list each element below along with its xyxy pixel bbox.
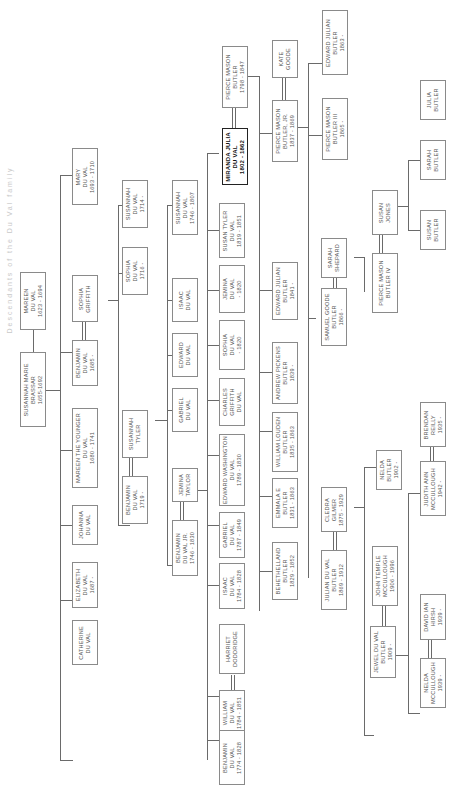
connector (108, 300, 118, 301)
person-box: BENJAMIN DU VAL 1774 - 1828 (219, 730, 245, 785)
connector (198, 490, 207, 491)
person-box: MAREEN THE YOUNGER DU VAL 1680 - 1741 (72, 408, 98, 488)
person-box: SOPHIA GRIFFITH (72, 275, 98, 322)
person-box: EDWARD JULIAN BUTLER 1841 - (272, 262, 298, 320)
person-box: PIERCE MASON BUTLER 1798 - 1847 (222, 46, 248, 108)
marriage-connector (231, 675, 235, 691)
person-box: SUSANNAH TYLER (122, 410, 148, 458)
person-box: SUSANNAH DU VAL 1746 - 1807 (172, 180, 198, 235)
person-box: WILLIAM LOUDEN BUTLER 1835 - 1863 (272, 412, 298, 472)
person-box: EDWARD JULIAN BUTLER 1863 - (322, 10, 348, 75)
connector (408, 493, 420, 494)
person-box: PIERCE MASON BUTLER, JR. 1837 - 1869 (272, 100, 298, 162)
person-box: KATE GOODE (272, 40, 298, 78)
connector (259, 372, 272, 373)
person-box: DAVID IAN HIRSH 1939 - (420, 594, 446, 640)
connector (408, 160, 409, 230)
person-box-highlighted: MIRANDA JULIA DU VAL 1802 - 1862 (222, 128, 248, 185)
person-box: JEWEL DU VAL BUTLER 1909 - (370, 626, 396, 678)
connector (60, 760, 73, 761)
connector (308, 135, 322, 136)
person-box: SARAH BUTLER (420, 140, 446, 180)
person-box: NELDA MCCULLOUGH 1939 - (420, 658, 446, 708)
connector (354, 257, 364, 258)
person-box: BENJAMIN DU VAL 1685 - (72, 340, 98, 386)
person-box: EMMALA E BUTLER 1831 - 1863 (272, 478, 298, 528)
person-box: EDWARD DU VAL (172, 333, 198, 377)
connector (364, 735, 374, 736)
connector (298, 127, 308, 128)
person-box: SUSANNAH MARIE BRASSAR 1655-1692 (20, 352, 46, 427)
person-box: NELDA BUTLER 1902 - (376, 450, 402, 490)
diagram-title: Descendants of the Du Val family (4, 150, 14, 350)
connector (259, 571, 272, 572)
person-box: CHARLES GRIFFITH DU VAL (219, 378, 245, 426)
person-box: ANDREW PICKENS BUTLER 1839 - (272, 342, 298, 404)
connector (398, 206, 408, 207)
person-box: EDWARD WASHINGTON DU VAL 1789 - 1830 (219, 434, 245, 506)
person-box: ISAAC DU VAL (172, 278, 198, 322)
connector (259, 431, 272, 432)
connector (155, 420, 167, 421)
person-box: JUDITH ANN MCCULLOUGH 1942 - (420, 461, 446, 516)
person-box: CATHERINE DU VAL (72, 620, 98, 665)
person-box: SOPHIA DU VAL 1716 - (122, 247, 148, 295)
person-box: SUSAN TYLER DU VAL 1819 - 1851 (219, 203, 245, 258)
person-box: BENJAMIN DU VAL 1719 - (122, 476, 148, 524)
person-box: JULIAN DU VAL BUTLER 1869 - 1912 (321, 550, 347, 610)
connector (207, 230, 208, 760)
person-box: BEHETHELLAND BUTLER 1829 - 1852 (272, 542, 298, 600)
connector (207, 455, 219, 456)
connector (408, 160, 420, 161)
person-box: SAMUEL GOODE BUTLER 1866 - (321, 288, 347, 346)
connector (207, 525, 219, 526)
connector (308, 318, 309, 578)
connector (207, 740, 219, 741)
person-box: JEMINA DU VAL - 1820 (219, 265, 245, 313)
person-box: SUSAN BUTLER (420, 210, 446, 250)
connector (259, 133, 272, 134)
connector (118, 525, 130, 526)
person-box: ISAAC DU VAL 1784 - 1828 (219, 563, 245, 609)
connector (354, 507, 364, 508)
person-box: MARY DU VAL 1693 - 1710 (72, 148, 98, 205)
connector (259, 496, 272, 497)
person-box: SUSANNAH DU VAL 1714 - (122, 180, 148, 228)
connector (207, 153, 208, 230)
connector (364, 257, 365, 292)
person-box: PIERCE MASON BUTLER IV (372, 253, 398, 313)
family-tree-diagram: Descendants of the Du Val family (0, 0, 462, 797)
marriage-connector (382, 606, 386, 626)
connector (364, 467, 376, 468)
marriage-connector (82, 322, 86, 340)
marriage-connector (379, 235, 383, 253)
person-box: JEMINA TAYLOR (172, 468, 198, 502)
person-box: BENJAMIN DU VAL JR. 1746 - 1830 (172, 520, 198, 576)
connector (248, 76, 259, 77)
connector (46, 390, 60, 391)
connector (33, 330, 34, 352)
connector (308, 63, 309, 163)
marriage-connector (430, 447, 434, 461)
connector (207, 290, 219, 291)
person-box: PIERCE MASON BUTLER III 1865 - (322, 98, 348, 160)
connector (207, 585, 219, 586)
marriage-connector (428, 640, 432, 658)
connector (207, 696, 219, 697)
connector (259, 290, 272, 291)
connector (207, 230, 219, 231)
marriage-connector (180, 502, 184, 520)
connector (308, 318, 316, 319)
person-box: BRENDAN REILLY 1935 - (420, 402, 446, 447)
marriage-connector (333, 532, 337, 550)
connector (308, 63, 322, 64)
person-box: SUSAN JONES (372, 190, 398, 235)
connector (207, 345, 219, 346)
connector (207, 400, 219, 401)
connector (167, 205, 168, 565)
connector (408, 493, 409, 713)
connector (408, 230, 420, 231)
person-box: MAREEN DU VAL 1623 - 1694 (20, 272, 46, 330)
connector (308, 163, 309, 318)
person-box: SARAH SHEPARD (321, 238, 347, 278)
